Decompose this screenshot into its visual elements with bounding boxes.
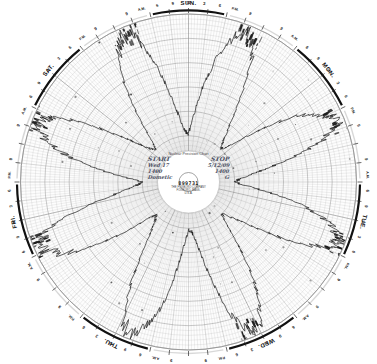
svg-text:3: 3 (249, 347, 254, 353)
svg-text:A.M.: A.M. (152, 355, 160, 360)
svg-text:6: 6 (7, 189, 12, 192)
svg-text:A.M.: A.M. (21, 106, 28, 115)
svg-text:P.M.: P.M. (67, 314, 75, 322)
svg-text:9: 9 (314, 304, 320, 310)
svg-text:A.M.: A.M. (301, 313, 309, 321)
svg-text:SUN.: SUN. (181, 0, 197, 6)
svg-text:9: 9 (57, 304, 63, 310)
svg-text:6: 6 (156, 3, 160, 8)
svg-text:FRI.: FRI. (9, 215, 18, 229)
svg-text:9: 9 (277, 333, 282, 339)
chart-disk: 9A.M.691236P.M.99A.M.691236P.M.99A.M.691… (7, 0, 370, 363)
svg-text:9: 9 (316, 56, 322, 62)
svg-text:6: 6 (365, 189, 370, 192)
svg-text:6: 6 (343, 94, 349, 99)
svg-text:A.M.: A.M. (138, 6, 146, 12)
svg-text:9: 9 (248, 11, 253, 17)
svg-text:P.M.: P.M. (218, 355, 226, 360)
svg-text:9: 9 (16, 123, 22, 127)
svg-text:THU.: THU. (102, 338, 119, 350)
svg-text:6: 6 (234, 352, 238, 358)
svg-text:9: 9 (171, 1, 174, 6)
svg-text:6: 6 (81, 324, 86, 330)
svg-text:3: 3 (8, 204, 13, 208)
svg-text:9: 9 (336, 277, 342, 282)
svg-text:P.M.: P.M. (350, 107, 356, 115)
svg-text:6: 6 (351, 250, 357, 255)
center-hub-hole (179, 173, 198, 192)
chart-canvas: 9A.M.691236P.M.99A.M.691236P.M.99A.M.691… (0, 0, 377, 364)
circular-chart-document: 9A.M.691236P.M.99A.M.691236P.M.99A.M.691… (0, 0, 377, 364)
svg-text:P.M.: P.M. (7, 171, 11, 178)
svg-text:6: 6 (218, 3, 222, 8)
svg-text:9: 9 (204, 358, 207, 363)
svg-text:P.M.: P.M. (343, 262, 350, 270)
svg-text:A.M.: A.M. (27, 262, 34, 271)
svg-text:P.M.: P.M. (79, 34, 87, 41)
svg-text:6: 6 (67, 44, 73, 50)
svg-text:3: 3 (94, 333, 99, 339)
svg-text:3: 3 (356, 235, 362, 239)
svg-text:P.M.: P.M. (231, 6, 239, 12)
svg-text:3: 3 (203, 1, 206, 6)
svg-text:9: 9 (93, 26, 98, 32)
svg-text:9: 9 (279, 26, 284, 32)
svg-text:6: 6 (138, 352, 142, 358)
svg-text:9: 9 (364, 158, 369, 162)
svg-text:6: 6 (304, 45, 310, 51)
svg-text:6: 6 (28, 94, 34, 99)
svg-text:9: 9 (125, 11, 130, 17)
svg-text:9: 9 (169, 358, 172, 363)
svg-text:9: 9 (364, 205, 369, 209)
svg-text:9: 9 (8, 157, 13, 161)
svg-text:9: 9 (123, 347, 128, 353)
svg-text:9: 9 (36, 80, 42, 85)
svg-text:6: 6 (20, 249, 26, 254)
svg-text:9: 9 (15, 235, 21, 239)
svg-text:9: 9 (35, 277, 41, 282)
svg-text:TUE.: TUE. (359, 214, 368, 230)
svg-text:A.M.: A.M. (365, 171, 369, 179)
svg-text:3: 3 (56, 55, 62, 61)
svg-text:3: 3 (335, 81, 341, 86)
svg-text:9: 9 (356, 123, 362, 127)
svg-text:6: 6 (290, 325, 295, 331)
svg-text:A.M.: A.M. (290, 34, 298, 42)
